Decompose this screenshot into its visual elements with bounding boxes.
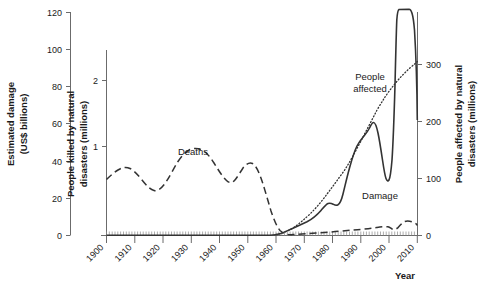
x-tick-label-1990: 1990 — [338, 242, 359, 263]
annotation-people-affected-line1: People — [355, 71, 385, 82]
middle-tick-label-2: 2 — [93, 76, 98, 86]
left-tick-label-80: 80 — [52, 82, 62, 92]
series-line-people-affected — [276, 62, 417, 235]
middle-tick-label-1: 1 — [93, 142, 98, 152]
annotation-deaths: Deaths — [178, 146, 208, 157]
x-major-ticks — [107, 236, 418, 244]
x-tick-label-1980: 1980 — [310, 242, 331, 263]
x-tick-label-1920: 1920 — [141, 242, 162, 263]
x-tick-label-2010: 2010 — [395, 242, 416, 263]
x-tick-label-1950: 1950 — [225, 242, 246, 263]
chart-figure: 0 20 40 60 80 100 120 Estimated damage (… — [0, 0, 483, 286]
series-curves — [107, 9, 418, 235]
x-tick-label-1910: 1910 — [112, 242, 133, 263]
x-tick-label-1930: 1930 — [169, 242, 190, 263]
x-tick-label-1940: 1940 — [197, 242, 218, 263]
right-tick-label-0: 0 — [426, 231, 431, 241]
left-tick-label-120: 120 — [47, 8, 62, 18]
right-axis: 0 100 200 300 People affected by natural… — [418, 12, 478, 241]
right-axis-title-line1: People affected by natural — [453, 65, 464, 183]
x-tick-label-2000: 2000 — [367, 242, 388, 263]
x-tick-label-1970: 1970 — [282, 242, 303, 263]
chart-svg: 0 20 40 60 80 100 120 Estimated damage (… — [0, 0, 483, 286]
annotation-people-affected-line2: affected — [353, 83, 387, 94]
middle-axis: 1 2 People killed by natural disasters (… — [65, 50, 107, 235]
left-tick-label-60: 60 — [52, 119, 62, 129]
left-axis: 0 20 40 60 80 100 120 Estimated damage (… — [5, 8, 71, 241]
right-tick-label-100: 100 — [426, 174, 441, 184]
right-tick-label-200: 200 — [426, 117, 441, 127]
left-axis-title-line1: Estimated damage — [5, 82, 16, 166]
annotation-damage: Damage — [362, 190, 398, 201]
left-axis-title-line2: (US$ billions) — [18, 94, 29, 155]
x-axis: 1900 1910 1920 1930 1940 1950 1960 1970 … — [84, 232, 422, 282]
right-axis-title-line2: disasters (millions) — [466, 81, 477, 168]
left-tick-label-40: 40 — [52, 157, 62, 167]
x-tick-label-1960: 1960 — [254, 242, 275, 263]
left-tick-label-100: 100 — [47, 45, 62, 55]
right-tick-label-300: 300 — [426, 60, 441, 70]
middle-axis-title-line2: disasters (millions) — [78, 101, 89, 188]
left-tick-label-0: 0 — [57, 231, 62, 241]
middle-axis-title-line1: People killed by natural — [65, 91, 76, 197]
x-tick-label-1900: 1900 — [84, 242, 105, 263]
left-tick-label-20: 20 — [52, 194, 62, 204]
x-axis-title: Year — [395, 270, 415, 281]
